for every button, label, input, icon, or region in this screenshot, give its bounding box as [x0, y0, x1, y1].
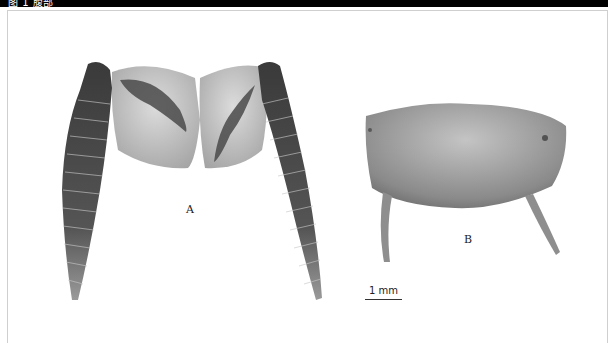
scale-bar-label: 1 mm — [369, 285, 398, 296]
panel-label-b: B — [464, 233, 472, 246]
specimen-illustration — [0, 0, 616, 343]
scale-bar-line — [365, 299, 402, 300]
panel-a-specimen — [62, 62, 322, 300]
panel-label-a: A — [186, 203, 194, 216]
